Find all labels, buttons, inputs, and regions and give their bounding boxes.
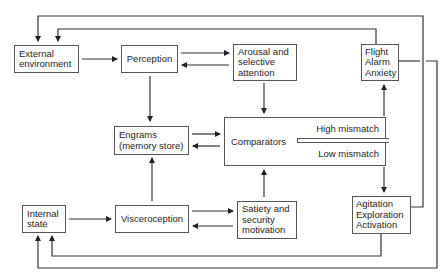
internal-state-box: Internal state [22,205,66,233]
visceroception-box: Visceroception [115,205,189,233]
node-text: environment [19,59,74,70]
node-text: Anxiety [365,68,395,79]
comparators-label: Comparators [231,136,286,147]
node-text: Activation [356,220,407,231]
comparators-box: Comparators High mismatch Low mismatch [224,117,386,166]
high-mismatch-label: High mismatch [316,123,379,134]
engrams-box: Engrams (memory store) [114,126,189,155]
node-text: (memory store) [119,141,184,152]
arousal-box: Arousal and selective attention [233,44,297,81]
flight-alarm-anxiety-box: Flight Alarm Anxiety [361,44,399,81]
external-environment-box: External environment [14,45,79,73]
node-text: Engrams [119,130,184,141]
agitation-exploration-box: Agitation Exploration Activation [352,196,411,234]
node-text: state [27,219,61,230]
node-text: motivation [242,225,292,236]
satiety-security-box: Satiety and security motivation [237,201,297,239]
low-mismatch-label: Low mismatch [318,148,379,159]
perception-box: Perception [121,45,178,73]
mismatch-divider-slot [297,138,389,143]
node-text: Visceroception [121,214,183,225]
node-text: attention [238,68,292,79]
node-text: Perception [127,54,172,65]
